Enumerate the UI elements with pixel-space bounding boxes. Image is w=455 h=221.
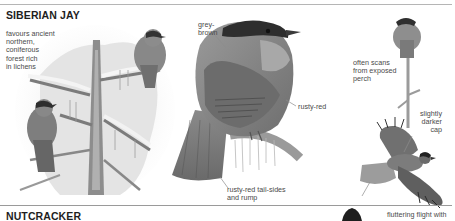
caption-exposed-perch: often scans from exposed perch — [353, 59, 397, 84]
siberian-jay-large-perched — [172, 20, 301, 180]
nutcracker-partial — [342, 208, 362, 221]
caption-head-grey-brown: grey- brown — [198, 21, 218, 37]
siberian-jay-on-exposed-perch — [393, 18, 421, 128]
caption-habitat: favours ancient northern, coniferous for… — [6, 30, 55, 71]
section-title-nutcracker: NUTCRACKER — [6, 210, 81, 221]
section-divider — [0, 205, 452, 206]
caption-flank-rusty-red: rusty-red — [298, 103, 326, 111]
caption-darker-cap: slightly darker cap — [420, 110, 442, 135]
caption-tail-rump: rusty-red tail-sides and rump — [227, 186, 286, 202]
caption-fluttering-flight: fluttering flight with — [387, 211, 447, 219]
